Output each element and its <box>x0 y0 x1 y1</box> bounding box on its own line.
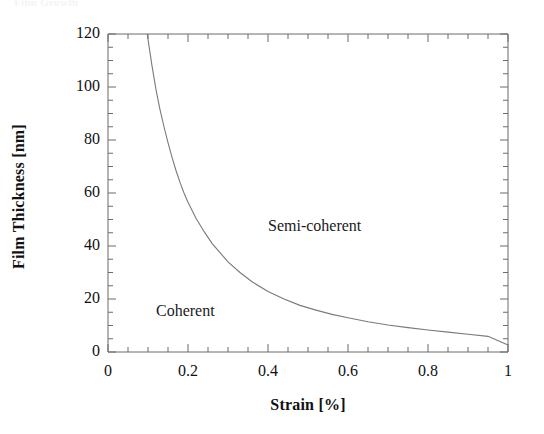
x-tick-label: 0 <box>86 362 130 380</box>
y-tick-label: 120 <box>56 24 100 42</box>
x-tick-label: 0.8 <box>406 362 450 380</box>
x-tick-label: 0.4 <box>246 362 290 380</box>
curve-path <box>147 34 508 345</box>
y-axis-title: Film Thickness [nm] <box>10 72 28 322</box>
y-tick-label: 0 <box>56 342 100 360</box>
region-label: Semi-coherent <box>268 217 361 235</box>
y-tick-label: 100 <box>56 77 100 95</box>
x-tick-label: 0.6 <box>326 362 370 380</box>
x-axis-title: Strain [%] <box>108 396 508 414</box>
region-label: Coherent <box>156 302 215 320</box>
x-tick-label: 1 <box>486 362 530 380</box>
x-tick-label: 0.2 <box>166 362 210 380</box>
y-axis-minor-ticks <box>108 47 508 339</box>
y-tick-label: 20 <box>56 289 100 307</box>
critical-thickness-curve <box>147 34 508 345</box>
y-tick-label: 40 <box>56 236 100 254</box>
figure-panel: Film Growth Film Thickness [nm] Strain [… <box>0 0 544 434</box>
y-tick-label: 80 <box>56 130 100 148</box>
y-tick-label: 60 <box>56 183 100 201</box>
